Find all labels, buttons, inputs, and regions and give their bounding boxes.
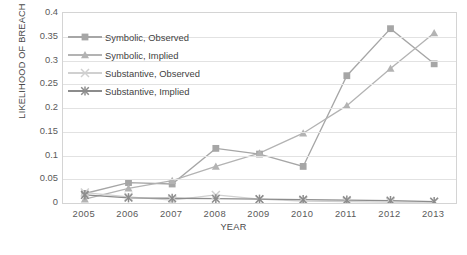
legend-item[interactable]: Substantive, Observed xyxy=(68,64,238,82)
likelihood-of-breach-line-chart: LIKELIHOOD OF BREACH 00.050.10.150.20.25… xyxy=(0,0,467,255)
legend-item[interactable]: Substantive, Implied xyxy=(68,82,238,100)
x-tick-label: 2005 xyxy=(61,208,107,219)
data-point-cross xyxy=(81,69,89,77)
y-tick-label: 0.15 xyxy=(24,126,58,135)
x-tick-label: 2011 xyxy=(323,208,369,219)
legend-label: Substantive, Implied xyxy=(102,86,189,97)
y-tick-label: 0 xyxy=(24,197,58,206)
gridline xyxy=(63,179,456,180)
data-point-square xyxy=(387,25,394,32)
data-point-triangle xyxy=(430,29,438,36)
data-point-square xyxy=(300,163,307,170)
data-point-square xyxy=(343,72,350,79)
data-point-triangle xyxy=(299,129,307,136)
x-tick-label: 2009 xyxy=(236,208,282,219)
x-tick-label: 2006 xyxy=(105,208,151,219)
data-point-square xyxy=(82,34,89,41)
y-tick-label: 0.35 xyxy=(24,31,58,40)
gridline xyxy=(63,132,456,133)
x-tick-label: 2007 xyxy=(148,208,194,219)
legend-item[interactable]: Symbolic, Implied xyxy=(68,46,238,64)
x-tick-label: 2010 xyxy=(279,208,325,219)
data-point-triangle xyxy=(81,51,89,58)
chart-legend: Symbolic, ObservedSymbolic, ImpliedSubst… xyxy=(68,28,238,100)
legend-marker-asterisk-icon xyxy=(68,84,102,98)
y-axis-tick-labels: 00.050.10.150.20.250.30.350.4 xyxy=(20,0,58,255)
legend-label: Substantive, Observed xyxy=(102,68,200,79)
data-point-square xyxy=(212,145,219,152)
x-axis-title: YEAR xyxy=(0,222,467,232)
legend-item[interactable]: Symbolic, Observed xyxy=(68,28,238,46)
legend-marker-square-icon xyxy=(68,30,102,44)
x-tick-label: 2012 xyxy=(367,208,413,219)
y-tick-label: 0.2 xyxy=(24,102,58,111)
y-tick-label: 0.4 xyxy=(24,7,58,16)
gridline xyxy=(63,156,456,157)
y-tick-label: 0.1 xyxy=(24,150,58,159)
x-tick-label: 2008 xyxy=(192,208,238,219)
legend-marker-cross-icon xyxy=(68,66,102,80)
legend-label: Symbolic, Implied xyxy=(102,50,178,61)
y-tick-label: 0.3 xyxy=(24,55,58,64)
gridline xyxy=(63,108,456,109)
y-tick-label: 0.05 xyxy=(24,173,58,182)
legend-marker-triangle-icon xyxy=(68,48,102,62)
x-tick-label: 2013 xyxy=(410,208,456,219)
data-point-asterisk xyxy=(81,86,89,95)
legend-label: Symbolic, Observed xyxy=(102,32,189,43)
y-tick-label: 0.25 xyxy=(24,78,58,87)
